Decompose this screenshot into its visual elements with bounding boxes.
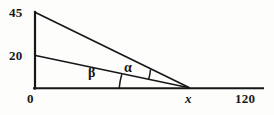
angle-arc-beta (119, 74, 122, 88)
label-angle-beta: β (88, 66, 95, 80)
label-angle-alpha: α (124, 61, 132, 75)
label-unknown-point-x: x (185, 92, 192, 105)
geometry-figure: 45 20 0 x 120 α β (0, 0, 274, 115)
figure-canvas (0, 0, 274, 115)
label-45: 45 (9, 6, 22, 19)
label-20: 20 (9, 49, 22, 62)
label-baseline-end-120: 120 (235, 92, 255, 105)
upper-hypotenuse-line (36, 13, 190, 88)
label-origin: 0 (27, 92, 34, 105)
lower-hypotenuse-line (36, 56, 190, 88)
angle-arc-alpha (149, 70, 151, 80)
